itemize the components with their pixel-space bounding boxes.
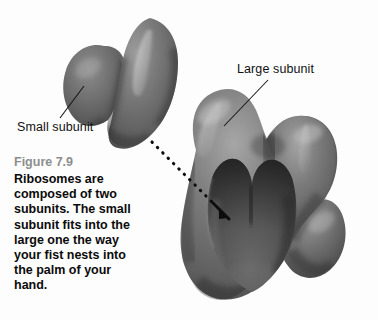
large-subunit-shape xyxy=(181,89,346,300)
figure-caption: Figure 7.9 Ribosomes are composed of two… xyxy=(14,155,164,294)
large-subunit-label: Large subunit xyxy=(237,62,314,76)
figure-number: Figure 7.9 xyxy=(14,155,164,170)
small-subunit-label: Small subunit xyxy=(17,120,93,134)
figure-page: Small subunit Large subunit Figure 7.9 R… xyxy=(0,0,378,320)
caption-body-text: Ribosomes are composed of two subunits. … xyxy=(14,172,146,294)
